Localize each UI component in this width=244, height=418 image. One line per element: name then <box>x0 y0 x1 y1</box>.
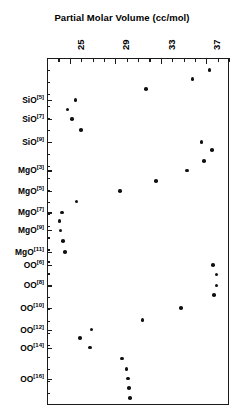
x-axis-minor-tick <box>184 58 185 62</box>
x-axis-tick-label: 25 <box>75 39 86 50</box>
y-axis-minor-tick <box>47 106 50 107</box>
data-point <box>78 336 82 340</box>
data-point <box>118 189 122 193</box>
data-point <box>58 219 62 223</box>
data-point <box>60 211 64 215</box>
y-axis-minor-tick <box>47 393 50 394</box>
y-axis-category-label: SiO[7] <box>22 115 44 123</box>
x-axis-minor-tick <box>149 58 150 62</box>
y-axis-minor-tick <box>47 357 50 358</box>
y-axis-minor-tick <box>47 249 50 250</box>
y-axis-minor-tick <box>47 214 50 215</box>
data-point <box>79 128 83 132</box>
y-axis-major-tick <box>47 191 52 192</box>
data-point <box>70 117 74 121</box>
data-point <box>212 293 216 297</box>
x-axis-minor-tick <box>127 58 128 62</box>
y-axis-category-label: SiO[5] <box>22 96 44 104</box>
y-axis-minor-tick <box>47 94 50 95</box>
y-axis-minor-tick <box>47 70 50 71</box>
x-axis-minor-tick <box>172 58 173 62</box>
y-axis-major-tick <box>47 212 52 213</box>
y-axis-category-label: OO[10] <box>20 304 44 312</box>
y-axis-minor-tick <box>47 297 50 298</box>
y-axis-minor-tick <box>47 309 50 310</box>
y-axis-category-label: OO[12] <box>20 325 44 333</box>
data-point <box>185 169 189 173</box>
y-axis-major-tick <box>47 170 52 171</box>
y-axis-minor-tick <box>47 154 50 155</box>
y-axis-major-tick <box>47 330 52 331</box>
x-axis-minor-tick <box>138 58 139 62</box>
y-axis-minor-tick <box>47 333 50 334</box>
data-point <box>127 386 131 390</box>
data-point <box>154 179 158 183</box>
y-axis-category-label: MgO[5] <box>18 187 44 195</box>
y-axis-minor-tick <box>47 130 50 131</box>
x-axis-tick-label: 37 <box>211 39 222 50</box>
scatter-plot-figure: Partial Molar Volume (cc/mol) 25293337 S… <box>0 0 244 418</box>
x-axis-major-tick <box>161 58 162 64</box>
y-axis-category-label: MgO[3] <box>18 166 44 174</box>
y-axis-major-tick <box>47 265 52 266</box>
x-axis-minor-tick <box>47 58 48 62</box>
y-axis-category-label: OO[16] <box>20 374 44 382</box>
x-axis-minor-tick <box>229 58 230 62</box>
x-axis-tick-label: 33 <box>166 39 177 50</box>
y-axis-major-tick <box>47 230 52 231</box>
y-axis-major-tick <box>47 142 52 143</box>
x-axis-minor-tick <box>58 58 59 62</box>
y-axis-major-tick <box>47 252 52 253</box>
y-axis-minor-tick <box>47 226 50 227</box>
data-point <box>61 239 65 243</box>
plot-area-frame <box>47 58 229 405</box>
y-axis-category-label: MgO[11] <box>15 248 44 256</box>
y-axis-major-tick <box>47 100 52 101</box>
y-axis-category-label: MgO[9] <box>18 226 44 234</box>
y-axis-minor-tick <box>47 273 50 274</box>
data-point <box>63 250 67 254</box>
y-axis-major-tick <box>47 119 52 120</box>
data-point <box>128 396 132 400</box>
data-point <box>74 98 78 102</box>
x-axis-major-tick <box>70 58 71 64</box>
y-axis-category-label: OO[8] <box>24 281 44 289</box>
data-point <box>202 159 206 163</box>
y-axis-minor-tick <box>47 321 50 322</box>
chart-title: Partial Molar Volume (cc/mol) <box>0 12 244 23</box>
y-axis-minor-tick <box>47 202 50 203</box>
y-axis-minor-tick <box>47 369 50 370</box>
x-axis-tick-label: 29 <box>120 39 131 50</box>
y-axis-minor-tick <box>47 178 50 179</box>
x-axis-minor-tick <box>81 58 82 62</box>
y-axis-minor-tick <box>47 237 50 238</box>
x-axis-minor-tick <box>93 58 94 62</box>
data-point <box>211 263 215 267</box>
y-axis-category-label: OO[14] <box>20 343 44 351</box>
x-axis-major-tick <box>206 58 207 64</box>
y-axis-category-label: MgO[7] <box>18 208 44 216</box>
y-axis-minor-tick <box>47 261 50 262</box>
y-axis-minor-tick <box>47 82 50 83</box>
x-axis-major-tick <box>115 58 116 64</box>
y-axis-major-tick <box>47 348 52 349</box>
data-point <box>179 306 183 310</box>
x-axis-minor-tick <box>195 58 196 62</box>
data-point <box>120 357 124 361</box>
y-axis-minor-tick <box>47 345 50 346</box>
data-point <box>210 148 214 152</box>
y-axis-major-tick <box>47 379 52 380</box>
data-point <box>144 87 148 91</box>
y-axis-minor-tick <box>47 166 50 167</box>
y-axis-minor-tick <box>47 381 50 382</box>
y-axis-category-label: SiO[9] <box>22 138 44 146</box>
x-axis-minor-tick <box>104 58 105 62</box>
y-axis-category-label: OO[6] <box>24 261 44 269</box>
y-axis-major-tick <box>47 285 52 286</box>
y-axis-major-tick <box>47 308 52 309</box>
x-axis-minor-tick <box>218 58 219 62</box>
